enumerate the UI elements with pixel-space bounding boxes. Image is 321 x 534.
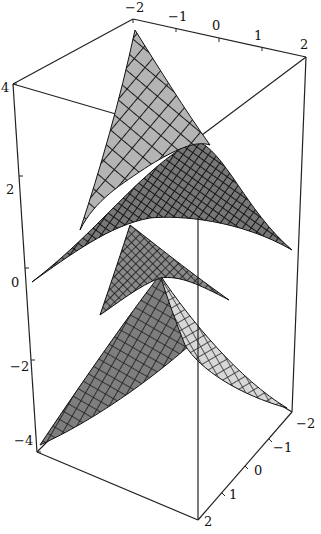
right-axis-tick-label: −2 [296, 417, 315, 430]
top-axis-tick-label: 1 [254, 29, 262, 42]
lower-sheet [40, 275, 287, 445]
z-axis-tick-label: −4 [14, 434, 33, 447]
top-axis-tick-label: −2 [125, 1, 144, 14]
z-axis-tick-label: −2 [10, 360, 29, 373]
z-axis-tick-label: 2 [6, 183, 14, 196]
z-axis-tick-label: 4 [1, 81, 9, 94]
z-axis-tick-label: 0 [11, 276, 19, 289]
right-axis-tick-label: 1 [229, 488, 237, 501]
right-axis-tick-label: −1 [273, 441, 292, 454]
right-axis-tick-label: 0 [254, 464, 262, 477]
top-axis-tick-label: 0 [212, 19, 220, 32]
right-axis-tick-label: 2 [204, 515, 212, 528]
top-axis-tick-label: 2 [300, 38, 308, 51]
top-axis-tick-label: −1 [168, 10, 187, 23]
